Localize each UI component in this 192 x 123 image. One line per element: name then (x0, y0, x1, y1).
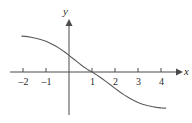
plot-canvas (0, 0, 192, 123)
x-tick-label-minus-2: –2 (15, 76, 32, 87)
x-tick-label-3: 3 (133, 76, 144, 87)
y-axis-arrowhead (66, 19, 73, 26)
function-graph-figure: y x –2 –1 1 2 3 4 (0, 0, 192, 123)
x-tick-label-2: 2 (110, 76, 121, 87)
y-axis-label: y (63, 6, 68, 17)
x-axis-arrowhead (176, 69, 183, 76)
x-tick-label-4: 4 (156, 76, 167, 87)
x-axis-label: x (184, 66, 189, 77)
x-tick-label-minus-1: –1 (38, 76, 55, 87)
x-tick-label-1: 1 (87, 76, 98, 87)
